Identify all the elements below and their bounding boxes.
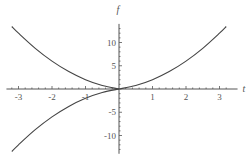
chart: -3-2-1123-10-5510tf — [0, 0, 252, 160]
x-tick-label: -1 — [82, 92, 90, 102]
y-tick-label: 10 — [107, 38, 117, 48]
labels: -3-2-1123-10-5510tf — [15, 4, 246, 141]
x-tick-label: 3 — [217, 92, 222, 102]
x-tick-label: 2 — [184, 92, 189, 102]
y-tick-label: -10 — [104, 131, 116, 141]
x-tick-label: -3 — [15, 92, 23, 102]
x-tick-label: 1 — [150, 92, 155, 102]
series-line — [12, 89, 119, 151]
x-tick-label: -2 — [48, 92, 56, 102]
x-axis-label: t — [243, 83, 246, 94]
series-line — [12, 27, 119, 89]
y-tick-label: 5 — [112, 61, 117, 71]
y-axis-label: f — [117, 4, 121, 15]
series-line — [119, 27, 226, 90]
y-tick-label: -5 — [109, 107, 117, 117]
